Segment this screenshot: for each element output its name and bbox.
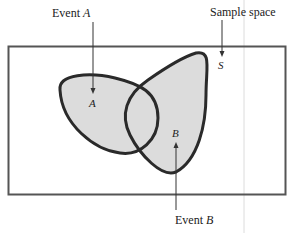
sample-space-label: Sample space bbox=[210, 6, 276, 18]
region-label-s: S bbox=[218, 60, 224, 71]
venn-diagram: Event A Sample space Event B A B S bbox=[0, 0, 294, 233]
sample-space-arrowhead bbox=[220, 51, 225, 57]
event-b-label-var: B bbox=[206, 213, 213, 227]
region-label-a: A bbox=[89, 98, 96, 109]
event-b-label-prefix: Event bbox=[175, 213, 206, 227]
event-a-label: Event A bbox=[52, 7, 90, 19]
event-b-label: Event B bbox=[175, 214, 213, 226]
event-a-label-var: A bbox=[83, 6, 90, 20]
region-label-b: B bbox=[172, 128, 179, 139]
event-a-label-prefix: Event bbox=[52, 6, 83, 20]
venn-diagram-svg bbox=[0, 0, 294, 233]
